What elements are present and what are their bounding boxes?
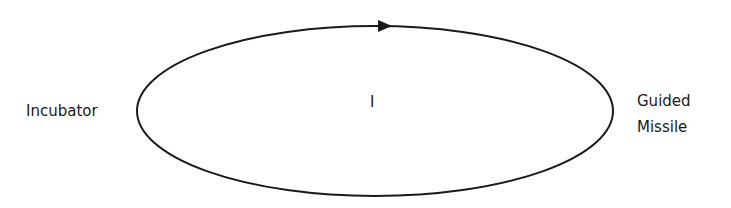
cycle-ellipse xyxy=(137,26,613,196)
right-label-line1: Guided xyxy=(637,88,691,114)
arrowhead-icon xyxy=(378,20,392,32)
cycle-diagram xyxy=(0,0,731,208)
center-label: I xyxy=(370,89,374,115)
left-label: Incubator xyxy=(26,98,98,124)
right-label-line2: Missile xyxy=(637,114,687,140)
